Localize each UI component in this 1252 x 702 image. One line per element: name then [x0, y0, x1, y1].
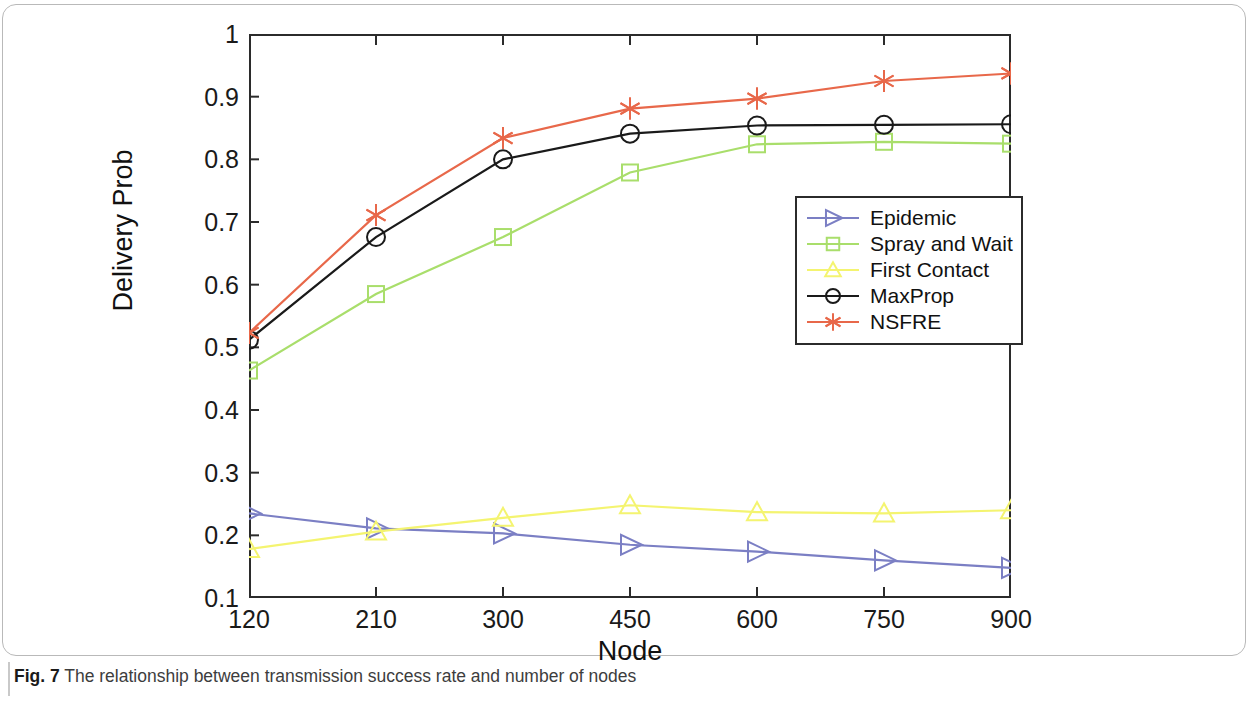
- legend-swatch-asterisk-icon: [805, 310, 861, 334]
- x-tick-210: 210: [355, 605, 397, 634]
- y-tick-0-3: 0.3: [204, 458, 239, 487]
- data-point-nsfre-300: [493, 127, 512, 149]
- line-chart: 0.10.20.30.40.50.60.70.80.91 12021030045…: [3, 5, 1247, 657]
- legend-label: Epidemic: [870, 206, 956, 230]
- figure-caption: Fig. 7 The relationship between transmis…: [14, 666, 1244, 687]
- caption-rule: [8, 662, 10, 696]
- legend-swatch-square-icon: [805, 232, 861, 256]
- y-tick-0-9: 0.9: [204, 82, 239, 111]
- legend-item-first-contact[interactable]: First Contact: [805, 257, 1007, 283]
- legend-item-nsfre[interactable]: NSFRE: [805, 309, 1007, 335]
- y-axis-tick-labels: 0.10.20.30.40.50.60.70.80.91: [123, 34, 239, 598]
- y-tick-0-7: 0.7: [204, 208, 239, 237]
- figure-page: 0.10.20.30.40.50.60.70.80.91 12021030045…: [0, 0, 1252, 702]
- legend-item-epidemic[interactable]: Epidemic: [805, 205, 1007, 231]
- y-axis-label: Delivery Prob: [108, 106, 139, 356]
- y-tick-0-5: 0.5: [204, 333, 239, 362]
- figure-card: 0.10.20.30.40.50.60.70.80.91 12021030045…: [2, 4, 1246, 656]
- y-tick-1: 1: [225, 20, 239, 49]
- x-axis-label: Node: [249, 636, 1011, 667]
- legend-swatch-triangle-right-icon: [805, 206, 861, 230]
- y-tick-0-6: 0.6: [204, 270, 239, 299]
- x-tick-600: 600: [736, 605, 778, 634]
- figure-caption-text: The relationship between transmission su…: [64, 666, 636, 686]
- x-tick-300: 300: [482, 605, 524, 634]
- chart-legend: EpidemicSpray and WaitFirst ContactMaxPr…: [795, 196, 1023, 345]
- x-tick-120: 120: [228, 605, 270, 634]
- legend-swatch-triangle-up-icon: [805, 258, 861, 282]
- y-tick-0-8: 0.8: [204, 145, 239, 174]
- y-tick-0-2: 0.2: [204, 521, 239, 550]
- x-tick-750: 750: [863, 605, 905, 634]
- data-point-nsfre-210: [366, 204, 385, 226]
- x-tick-450: 450: [609, 605, 651, 634]
- legend-label: First Contact: [870, 258, 989, 282]
- legend-item-maxprop[interactable]: MaxProp: [805, 283, 1007, 309]
- y-tick-0-4: 0.4: [204, 396, 239, 425]
- x-tick-900: 900: [990, 605, 1032, 634]
- legend-item-spray-and-wait[interactable]: Spray and Wait: [805, 231, 1007, 257]
- figure-caption-label: Fig. 7: [14, 666, 60, 686]
- legend-swatch-circle-icon: [805, 284, 861, 308]
- legend-label: Spray and Wait: [870, 232, 1013, 256]
- legend-label: NSFRE: [870, 310, 941, 334]
- legend-label: MaxProp: [870, 284, 954, 308]
